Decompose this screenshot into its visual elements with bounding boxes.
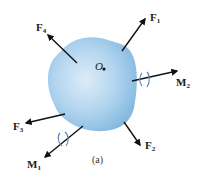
force-arrow-f3 (26, 114, 65, 123)
origin-label: O (95, 61, 103, 72)
force-arrow-f2 (124, 122, 140, 145)
rigid-body (48, 37, 137, 131)
force-label-f3: F3 (13, 121, 23, 134)
force-arrow-f1 (122, 19, 145, 51)
moment-label-m2: M2 (176, 77, 190, 90)
moment-label-m1: M1 (27, 159, 41, 172)
free-body-diagram: O F1 F2 F3 F4 M1 M2 (a) (0, 0, 200, 181)
moment-arrow-m2 (132, 71, 177, 81)
force-label-f4: F4 (36, 22, 46, 35)
force-label-f2: F2 (145, 140, 155, 153)
figure-caption: (a) (92, 155, 103, 165)
moment-arrow-m1 (45, 126, 83, 157)
force-label-f1: F1 (150, 12, 160, 25)
